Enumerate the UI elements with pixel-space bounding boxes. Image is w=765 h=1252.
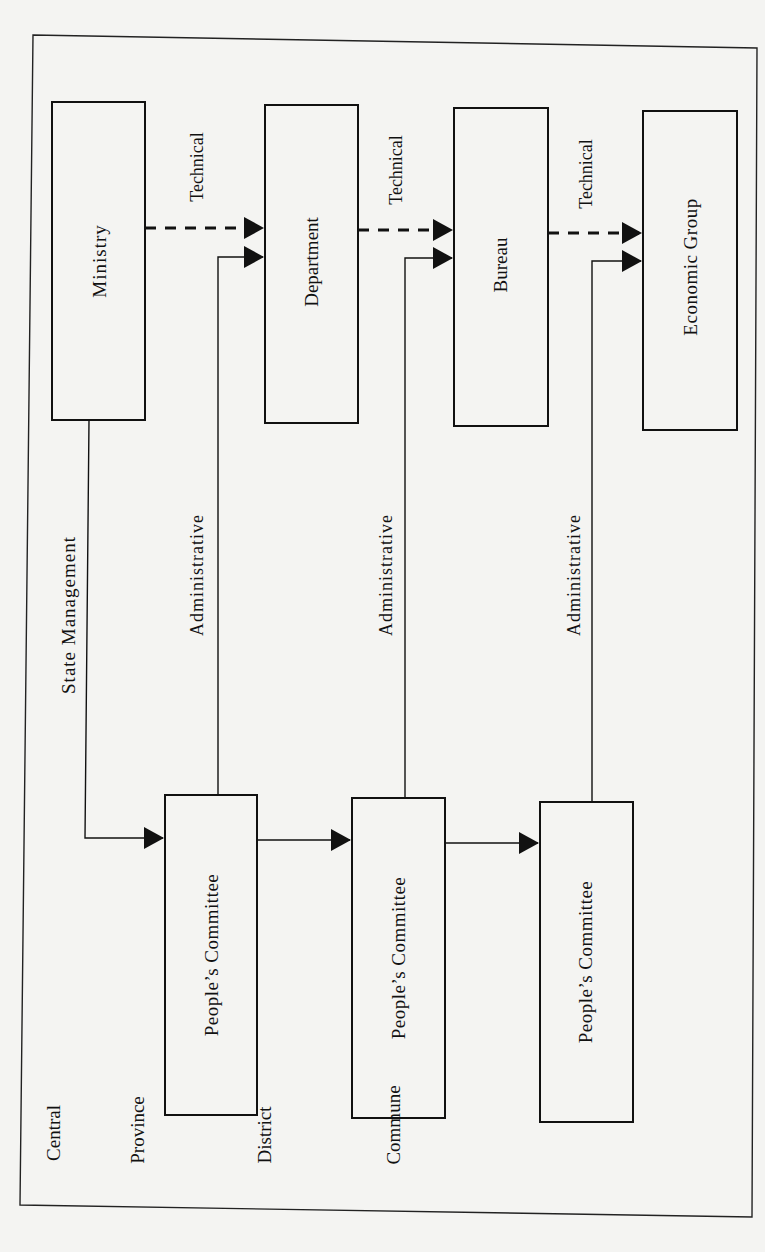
- level-central-label: Central: [43, 1105, 64, 1161]
- technical-label-3: Technical: [576, 139, 596, 209]
- district-committee-label: People’s Committee: [388, 877, 409, 1040]
- bureau-label: Bureau: [490, 237, 511, 292]
- technical-label-2: Technical: [386, 135, 406, 205]
- administrative-label-1: Administrative: [187, 514, 207, 636]
- level-commune-label: Commune: [383, 1085, 404, 1164]
- ministry-label: Ministry: [89, 224, 110, 297]
- level-district-label: District: [254, 1106, 275, 1164]
- administrative-arrow-2: [405, 258, 452, 798]
- administrative-label-3: Administrative: [564, 514, 584, 636]
- level-province-label: Province: [127, 1096, 148, 1164]
- state-management-arrow: [85, 420, 163, 838]
- commune-committee-label: People’s Committee: [575, 881, 596, 1044]
- province-committee-label: People’s Committee: [201, 874, 222, 1037]
- economic-group-label: Economic Group: [680, 198, 701, 335]
- technical-label-1: Technical: [187, 132, 207, 202]
- diagram-page: Ministry Department Bureau Economic Grou…: [0, 0, 765, 1252]
- administrative-label-2: Administrative: [376, 514, 396, 636]
- department-label: Department: [301, 216, 322, 306]
- administrative-arrow-3: [592, 261, 641, 802]
- org-diagram: Ministry Department Bureau Economic Grou…: [0, 0, 765, 1252]
- state-management-label: State Management: [58, 536, 79, 694]
- administrative-arrow-1: [218, 257, 263, 795]
